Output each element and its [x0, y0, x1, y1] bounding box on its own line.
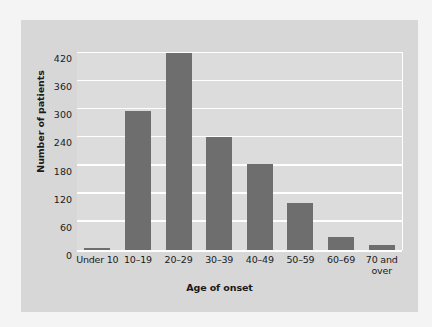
bar-slot [240, 53, 281, 250]
bar[interactable] [84, 248, 110, 250]
x-axis-tick-label: 60–69 [319, 254, 363, 265]
bar-slot [361, 53, 402, 250]
bar[interactable] [369, 245, 395, 250]
bar[interactable] [328, 237, 354, 250]
bar-slot [280, 53, 321, 250]
x-axis-tick-label: 10–19 [116, 254, 160, 265]
bar-slot [158, 53, 199, 250]
x-axis-tick-label: 40–49 [238, 254, 282, 265]
bar-slot [321, 53, 362, 250]
bar-slot [77, 53, 118, 250]
x-axis-baseline [77, 250, 402, 252]
bar-slot [199, 53, 240, 250]
y-axis-title: Number of patients [35, 47, 46, 197]
bar-slot [118, 53, 159, 250]
bar[interactable] [247, 164, 273, 250]
x-axis-tick-label: Under 10 [75, 254, 119, 265]
bar[interactable] [166, 53, 192, 250]
bars-layer [77, 53, 402, 250]
plot-area: 060120180240300360420 Under 1010–1920–29… [77, 52, 403, 250]
chart-card: Number of patients 060120180240300360420… [21, 20, 418, 312]
x-axis-tick-label: 50–59 [278, 254, 322, 265]
x-axis-tick-label: 30–39 [197, 254, 241, 265]
x-axis-tick-label: 70 and over [360, 254, 404, 276]
x-axis-title: Age of onset [21, 282, 418, 293]
x-axis-tick-label: 20–29 [157, 254, 201, 265]
bar[interactable] [206, 137, 232, 251]
bar[interactable] [125, 111, 151, 250]
bar[interactable] [287, 203, 313, 250]
